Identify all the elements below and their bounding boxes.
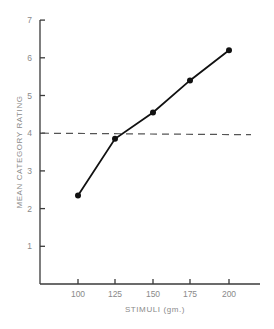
x-tick-label: 175: [183, 289, 197, 299]
y-axis: 1234567 MEAN CATEGORY RATING: [15, 15, 45, 284]
data-point: [150, 109, 156, 115]
x-tick-label: 150: [146, 289, 160, 299]
reference-lines: [42, 133, 251, 135]
x-tick-label: 125: [108, 289, 122, 299]
x-axis: 100125150175200 STIMULI (gm.): [40, 279, 260, 314]
y-tick-label: 2: [27, 204, 32, 214]
y-tick-label: 5: [27, 91, 32, 101]
line-chart: 1234567 MEAN CATEGORY RATING 10012515017…: [0, 0, 274, 329]
y-axis-title: MEAN CATEGORY RATING: [15, 95, 24, 208]
data-series: [75, 47, 232, 198]
data-point: [75, 192, 81, 198]
y-tick-label: 7: [27, 15, 32, 25]
x-axis-ticks: 100125150175200: [71, 279, 236, 299]
y-tick-label: 4: [27, 128, 32, 138]
x-tick-label: 200: [222, 289, 236, 299]
x-axis-title: STIMULI (gm.): [125, 305, 185, 314]
data-point: [112, 136, 118, 142]
y-tick-label: 1: [27, 241, 32, 251]
reference-line-dashed: [42, 133, 251, 135]
series-line: [78, 50, 229, 195]
y-tick-label: 6: [27, 53, 32, 63]
data-point: [226, 47, 232, 53]
x-tick-label: 100: [71, 289, 85, 299]
data-point: [187, 77, 193, 83]
y-tick-label: 3: [27, 166, 32, 176]
